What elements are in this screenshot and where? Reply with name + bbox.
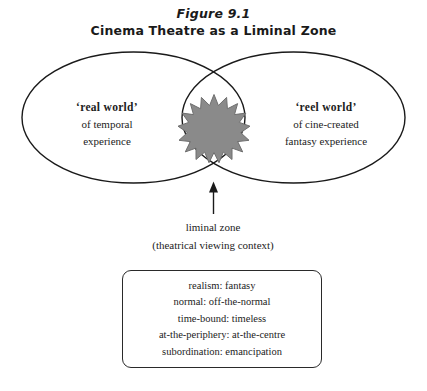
liminal-zone-caption: liminal zone (theatrical viewing context… [93, 218, 333, 254]
right-circle-line3: fantasy experience [240, 133, 412, 150]
figure-number: Figure 9.1 [0, 6, 427, 22]
figure-caption-title: Cinema Theatre as a Liminal Zone [0, 22, 427, 39]
pointer-arrow [209, 182, 218, 215]
liminal-zone-caption-line1: liminal zone [93, 218, 333, 236]
opposition-pairs-box: realism: fantasy normal: off-the-normal … [122, 270, 322, 368]
pair-line: realism: fantasy [189, 278, 256, 295]
pair-line: time-bound: timeless [178, 311, 266, 328]
left-circle-label: ‘real world’ of temporal experience [22, 98, 192, 150]
right-circle-line2: of cine-created [240, 116, 412, 133]
pair-line: at-the-periphery: at-the-centre [159, 327, 285, 344]
left-circle-line2: of temporal [22, 116, 192, 133]
left-circle-heading: ‘real world’ [22, 98, 192, 116]
left-circle-line3: experience [22, 133, 192, 150]
figure-title-block: Figure 9.1 Cinema Theatre as a Liminal Z… [0, 6, 427, 39]
pair-line: normal: off-the-normal [174, 294, 271, 311]
liminal-zone-caption-line2: (theatrical viewing context) [93, 236, 333, 254]
right-circle-heading: ‘reel world’ [240, 98, 412, 116]
right-circle-label: ‘reel world’ of cine-created fantasy exp… [240, 98, 412, 150]
pair-line: subordination: emancipation [162, 344, 282, 361]
figure-canvas: Figure 9.1 Cinema Theatre as a Liminal Z… [0, 0, 427, 391]
